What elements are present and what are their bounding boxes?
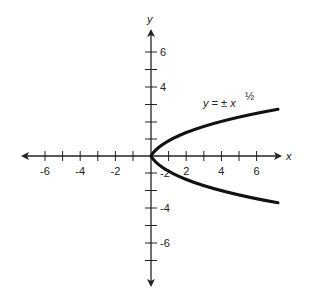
svg-text:-4: -4 <box>160 202 170 214</box>
svg-text:6: 6 <box>254 165 260 177</box>
svg-text:-6: -6 <box>40 165 50 177</box>
svg-text:4: 4 <box>160 81 166 93</box>
y-axis-label: y <box>146 13 154 25</box>
svg-text:2: 2 <box>183 165 189 177</box>
x-tick-labels: -6 -4 -2 2 4 6 <box>40 165 260 177</box>
svg-text:-6: -6 <box>160 237 170 249</box>
y-tick-labels: 6 4 -2 -4 -6 <box>160 46 170 249</box>
x-axis-label: x <box>285 150 292 162</box>
svg-text:½: ½ <box>245 90 254 102</box>
svg-text:6: 6 <box>160 46 166 58</box>
svg-text:y = ± x: y = ± x <box>202 97 236 109</box>
svg-text:4: 4 <box>218 165 224 177</box>
svg-text:-4: -4 <box>75 165 85 177</box>
parabola-chart: -6 -4 -2 2 4 6 6 4 -2 -4 -6 y x y = ± x … <box>0 0 312 294</box>
svg-text:-2: -2 <box>111 165 121 177</box>
equation-label: y = ± x ½ <box>202 90 254 109</box>
